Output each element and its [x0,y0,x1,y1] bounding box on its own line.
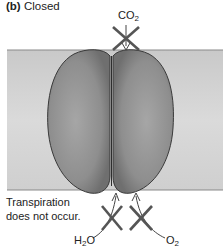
blocked-cross-icon [130,206,152,230]
h2o-label: H2O [74,234,95,250]
note-line-2: does not occur. [6,210,81,224]
o2-arrow-blocked [130,193,165,238]
co2-arrow-blocked [113,25,139,50]
h2o-arrow-blocked [93,193,122,238]
transpiration-note: Transpiration does not occur. [6,196,81,223]
o2-label: O2 [166,234,179,250]
co2-label: CO2 [118,9,139,25]
blocked-cross-icon [102,206,122,230]
note-line-1: Transpiration [6,196,81,210]
